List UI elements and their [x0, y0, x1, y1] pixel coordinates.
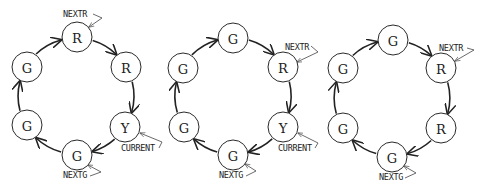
node-label: R: [436, 62, 447, 77]
node-label: G: [179, 121, 189, 136]
node-g: G: [218, 23, 248, 53]
node-g: G: [12, 52, 42, 82]
pointer-arrow: [88, 165, 101, 176]
node-label: G: [387, 151, 397, 166]
node-label: G: [228, 149, 238, 164]
diagram-stage: RRYGGGNEXTRCURRENTNEXTGGRYGGGNEXTRCURREN…: [0, 0, 489, 192]
edge-arrow: [36, 138, 61, 152]
edge-arrow: [18, 81, 20, 111]
edge-arrow: [353, 42, 377, 55]
node-label: G: [338, 62, 348, 77]
node-label: G: [22, 119, 32, 134]
node-label: G: [72, 149, 82, 164]
node-label: Y: [278, 121, 288, 136]
node-label: R: [278, 61, 289, 76]
node-g: G: [168, 53, 198, 83]
pointer-label: NEXTR: [439, 43, 464, 53]
node-r: R: [111, 52, 141, 82]
edge-arrow: [194, 139, 217, 152]
node-r: R: [426, 53, 456, 83]
node-y: Y: [110, 112, 140, 142]
edge-arrow: [408, 141, 431, 154]
node-g: G: [12, 110, 42, 140]
node-label: G: [22, 61, 32, 76]
edge-arrow: [249, 139, 272, 152]
node-g: G: [328, 53, 358, 83]
pointer-label: NEXTR: [285, 42, 310, 52]
pointer-label: CURRENT: [278, 143, 312, 153]
node-g: G: [62, 140, 92, 170]
node-label: G: [338, 122, 348, 137]
edge-arrow: [249, 40, 274, 54]
pointer-arrow: [245, 164, 256, 176]
pointer-arrow: [89, 14, 102, 27]
edge-arrow: [192, 40, 217, 55]
pointer-label: CURRENT: [121, 143, 155, 153]
node-g: G: [377, 142, 407, 172]
diagram-3: GRRGGGNEXTRNEXTG: [328, 25, 474, 182]
edge-arrow: [334, 82, 336, 113]
node-r: R: [62, 22, 92, 52]
pointer-arrow: [404, 166, 416, 178]
diagram-2: GRYGGGNEXTRCURRENTNEXTG: [168, 23, 318, 180]
edge-arrow: [289, 82, 291, 113]
node-label: R: [121, 61, 132, 76]
node-r: R: [268, 52, 298, 82]
edge-arrow: [353, 141, 376, 154]
edge-arrow: [36, 40, 61, 54]
node-g: G: [218, 140, 248, 170]
edge-arrow: [175, 82, 177, 112]
pointer-label: NEXTG: [219, 170, 243, 180]
ring-buffer-diagrams: RRYGGGNEXTRCURRENTNEXTGGRYGGGNEXTRCURREN…: [0, 0, 489, 192]
pointer-label: NEXTG: [379, 172, 403, 182]
edge-arrow: [448, 82, 450, 113]
diagram-1: RRYGGGNEXTRCURRENTNEXTG: [12, 9, 162, 180]
node-label: R: [436, 122, 447, 137]
node-label: Y: [120, 121, 130, 136]
node-label: G: [228, 32, 238, 47]
node-label: G: [178, 62, 188, 77]
pointer-label: NEXTG: [63, 170, 87, 180]
edge-arrow: [132, 82, 134, 113]
node-g: G: [169, 112, 199, 142]
node-g: G: [328, 113, 358, 143]
node-label: R: [72, 31, 83, 46]
pointer-label: NEXTR: [63, 9, 88, 19]
node-label: G: [388, 34, 398, 49]
edge-arrow: [93, 139, 115, 151]
edge-arrow: [93, 41, 117, 55]
node-g: G: [378, 25, 408, 55]
node-y: Y: [268, 112, 298, 142]
edge-arrow: [409, 43, 431, 56]
node-r: R: [426, 113, 456, 143]
